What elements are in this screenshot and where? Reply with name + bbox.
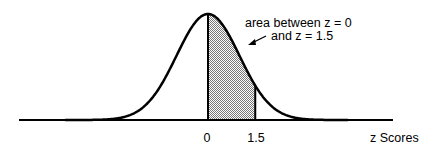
tick-label-1-5: 1.5 bbox=[247, 131, 264, 145]
arrow-head-icon bbox=[248, 39, 256, 45]
annotation-line2: and z = 1.5 bbox=[271, 29, 333, 43]
tick-label-0: 0 bbox=[204, 131, 211, 145]
x-axis-label: z Scores bbox=[370, 131, 419, 145]
normal-curve-figure: area between z = 0 and z = 1.5 0 1.5 z S… bbox=[0, 0, 437, 156]
annotation-line1: area between z = 0 bbox=[245, 16, 352, 30]
